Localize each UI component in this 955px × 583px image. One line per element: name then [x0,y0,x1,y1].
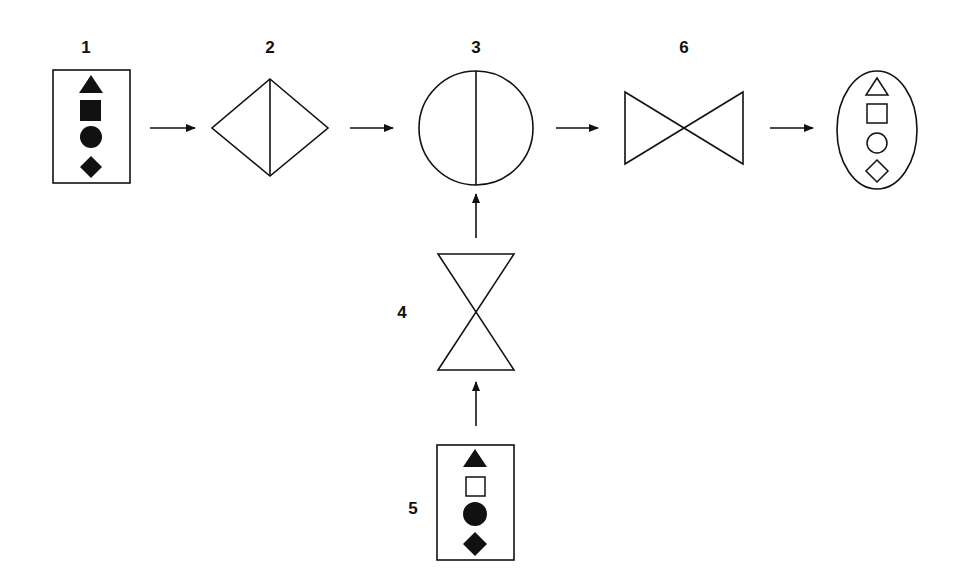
hollow-diamond-icon [866,160,888,182]
hollow-triangle-icon [866,78,888,95]
node-1: 1 [53,38,130,183]
hollow-circle-icon [867,133,887,153]
node-6-bowtie [625,92,743,164]
process-diagram: 1 2 3 6 4 [0,0,955,583]
node-4-label: 4 [397,303,407,322]
filled-circle-icon [80,126,102,148]
node-3: 3 [419,38,533,185]
hollow-square-icon [466,477,485,496]
hollow-square-icon [867,104,887,123]
node-3-label: 3 [471,38,480,57]
node-6: 6 [625,38,743,164]
node-4: 4 [397,254,514,370]
node-2-label: 2 [265,38,274,57]
node-5: 5 [408,445,514,560]
filled-circle-icon [463,502,487,526]
node-2: 2 [212,38,328,176]
node-4-hourglass [438,254,514,370]
node-5-label: 5 [408,499,417,518]
node-6-label: 6 [679,38,688,57]
filled-square-icon [80,100,101,121]
node-1-label: 1 [81,38,90,57]
filled-diamond-icon [80,156,102,178]
filled-triangle-icon [463,449,487,467]
output-node [837,71,917,189]
filled-triangle-icon [79,75,103,93]
filled-diamond-icon [463,532,487,556]
